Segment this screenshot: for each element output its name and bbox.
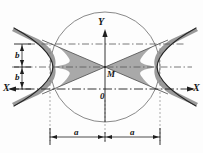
hyperbola-right-lower-tail [154,67,198,106]
a-dimension-group [50,128,160,145]
a-arrow-far-left [51,135,57,139]
a-arrow-mid-left [98,135,104,139]
center-point-marker [104,66,106,68]
y-axis-arrow-up [102,29,107,37]
hyperbola-right-upper-tail [154,28,198,67]
b-upper-label: b [15,51,20,60]
center-point-label: M [107,70,115,79]
b-upper-arrow-top [20,45,24,51]
b-lower-arrow-top [20,68,24,74]
a-right-label: a [130,128,135,137]
x-axis-label-right: X [193,83,200,93]
a-arrow-far-right [153,135,159,139]
origin-label: 0 [100,92,105,101]
a-left-label: a [74,128,79,137]
y-axis-label: Y [98,17,104,27]
b-lower-label: b [15,73,20,82]
hyperbola-left-upper-tail [12,28,56,67]
b-lower-arrow-bottom [20,82,24,88]
b-upper-arrow-bottom [20,60,24,66]
hyperbola-figure: Y X X M 0 b b a a [0,0,203,153]
x-axis-label-left: X [3,83,10,93]
a-arrow-mid-right [106,135,112,139]
